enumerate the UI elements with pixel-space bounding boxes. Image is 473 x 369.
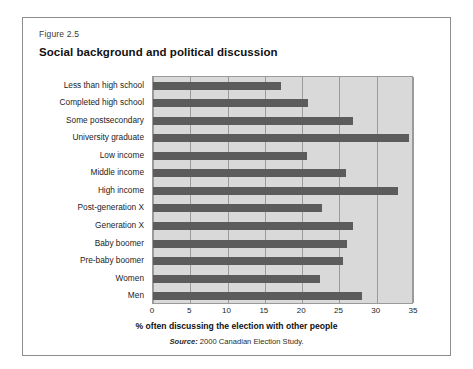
source-label: Source: <box>169 337 197 346</box>
category-label: Pre-baby boomer <box>23 251 148 269</box>
x-tick-label: 5 <box>187 306 191 315</box>
category-label: Less than high school <box>23 76 148 94</box>
category-label: Post-generation X <box>23 199 148 217</box>
gridline-35 <box>413 77 414 303</box>
x-tick-label: 35 <box>409 306 418 315</box>
x-tick-label: 25 <box>334 306 343 315</box>
x-tick-label: 30 <box>371 306 380 315</box>
bar-row[interactable] <box>153 147 412 165</box>
bar-series <box>153 77 412 303</box>
bar-chart-plot-area <box>152 76 413 304</box>
bar-row[interactable] <box>153 112 412 130</box>
category-label: University graduate <box>23 129 148 147</box>
bar[interactable] <box>153 99 308 107</box>
category-label: Completed high school <box>23 94 148 112</box>
bar[interactable] <box>153 134 409 142</box>
bar-row[interactable] <box>153 95 412 113</box>
bar[interactable] <box>153 187 398 195</box>
category-label: Men <box>23 286 148 304</box>
category-label: Baby boomer <box>23 234 148 252</box>
bar-row[interactable] <box>153 217 412 235</box>
x-tick-label: 0 <box>150 306 154 315</box>
bar-row[interactable] <box>153 235 412 253</box>
category-label: Women <box>23 269 148 287</box>
x-tick-label: 10 <box>222 306 231 315</box>
bar[interactable] <box>153 82 281 90</box>
x-axis-label: % often discussing the election with oth… <box>23 321 450 331</box>
category-label: Generation X <box>23 216 148 234</box>
figure-title: Social background and political discussi… <box>39 46 278 58</box>
bar-row[interactable] <box>153 182 412 200</box>
bar[interactable] <box>153 169 346 177</box>
source-text: 2000 Canadian Election Study. <box>198 337 304 346</box>
bar-row[interactable] <box>153 200 412 218</box>
category-label: Some postsecondary <box>23 111 148 129</box>
category-axis-labels: Less than high schoolCompleted high scho… <box>23 76 148 304</box>
x-tick-label: 20 <box>297 306 306 315</box>
category-label: High income <box>23 181 148 199</box>
bar[interactable] <box>153 292 362 300</box>
bar-row[interactable] <box>153 287 412 305</box>
category-label: Middle income <box>23 164 148 182</box>
category-label: Low income <box>23 146 148 164</box>
bar-row[interactable] <box>153 165 412 183</box>
bar[interactable] <box>153 204 322 212</box>
bar[interactable] <box>153 222 353 230</box>
bar[interactable] <box>153 275 320 283</box>
figure-container: Figure 2.5 Social background and politic… <box>22 17 451 356</box>
bar[interactable] <box>153 152 307 160</box>
bar[interactable] <box>153 240 347 248</box>
bar-row[interactable] <box>153 252 412 270</box>
figure-number: Figure 2.5 <box>39 29 79 39</box>
bar-row[interactable] <box>153 77 412 95</box>
bar-row[interactable] <box>153 130 412 148</box>
bar[interactable] <box>153 257 343 265</box>
bar-row[interactable] <box>153 270 412 288</box>
source-note: Source: 2000 Canadian Election Study. <box>23 337 450 346</box>
x-tick-label: 15 <box>259 306 268 315</box>
x-axis-tick-labels: 05101520253035 <box>152 306 413 318</box>
bar[interactable] <box>153 117 353 125</box>
